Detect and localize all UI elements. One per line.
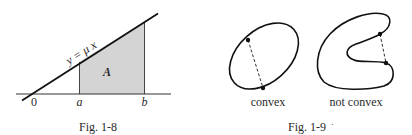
nonconvex-point-2 bbox=[384, 61, 388, 65]
figure-1-9: convex not convex Fig. 1-9 · bbox=[217, 10, 393, 134]
nonconvex-shape bbox=[317, 13, 393, 89]
convex-point-1 bbox=[246, 38, 250, 42]
a-label: a bbox=[77, 95, 83, 109]
convex-point-2 bbox=[261, 86, 265, 90]
convex-chord bbox=[248, 40, 263, 88]
nonconvex-point-1 bbox=[378, 32, 382, 36]
caption-fig-1-8: Fig. 1-8 bbox=[79, 120, 117, 134]
origin-label: 0 bbox=[31, 95, 37, 109]
caption-fig-1-9: Fig. 1-9 bbox=[288, 120, 326, 134]
caption-mark: · bbox=[331, 119, 334, 129]
figure-1-8: y = μ x A 0 a b Fig. 1-8 bbox=[16, 14, 171, 135]
b-label: b bbox=[142, 95, 148, 109]
area-label: A bbox=[102, 65, 111, 79]
figure-canvas: y = μ x A 0 a b Fig. 1-8 convex not conv… bbox=[0, 0, 412, 134]
convex-label: convex bbox=[251, 95, 286, 109]
not-convex-label: not convex bbox=[330, 95, 383, 109]
nonconvex-chord bbox=[380, 34, 386, 63]
